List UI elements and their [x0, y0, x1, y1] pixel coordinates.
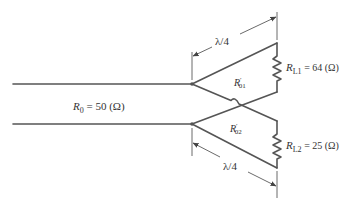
- branch2-impedance-label: R′02: [229, 122, 242, 136]
- dim2-arrow-left: [193, 143, 220, 157]
- dim1-arrow-right: [240, 17, 276, 34]
- dim2-arrow-right: [248, 172, 276, 186]
- dim1-arrow-left: [193, 47, 212, 56]
- transmission-line-diagram: λ/4 λ/4 R0 = 50 (Ω) R′01 R′02 RL1 = 64 (…: [0, 0, 355, 206]
- branch1-length-label: λ/4: [215, 35, 229, 47]
- load2-label: RL2 = 25 (Ω): [285, 139, 339, 154]
- load-resistor-rl2: [273, 121, 281, 168]
- branch2-crossing-conductor: [192, 84, 277, 121]
- branch2-length-label: λ/4: [223, 160, 237, 172]
- load-resistor-rl1: [273, 43, 281, 92]
- load1-label: RL1 = 64 (Ω): [285, 61, 339, 76]
- branch1-crossing-conductor: [192, 92, 277, 124]
- branch1-impedance-label: R′01: [233, 76, 246, 90]
- main-line-impedance-label: R0 = 50 (Ω): [72, 100, 125, 115]
